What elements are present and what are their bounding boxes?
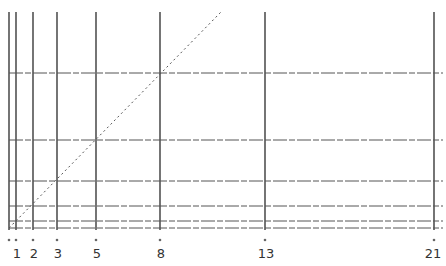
tick-dot	[433, 239, 436, 242]
tick-dot	[56, 239, 59, 242]
tick-dot	[95, 239, 98, 242]
axis-label-3: 3	[54, 246, 62, 261]
axis-label-5: 5	[93, 246, 101, 261]
tick-dot	[159, 239, 162, 242]
tick-dots	[8, 239, 436, 242]
axis-label-21: 21	[425, 246, 442, 261]
axis-label-2: 2	[30, 246, 38, 261]
tick-dot	[15, 239, 18, 242]
axis-label-13: 13	[258, 246, 275, 261]
tick-dot	[8, 239, 11, 242]
vertical-grid-lines	[9, 12, 434, 230]
tick-dot	[264, 239, 267, 242]
fibonacci-grid-diagram: 123581321	[0, 0, 446, 266]
horizontal-grid-lines	[9, 73, 443, 228]
diagonal-dotted-line	[9, 12, 221, 228]
axis-label-8: 8	[157, 246, 165, 261]
axis-label-1: 1	[13, 246, 21, 261]
axis-labels: 123581321	[13, 246, 441, 261]
tick-dot	[32, 239, 35, 242]
